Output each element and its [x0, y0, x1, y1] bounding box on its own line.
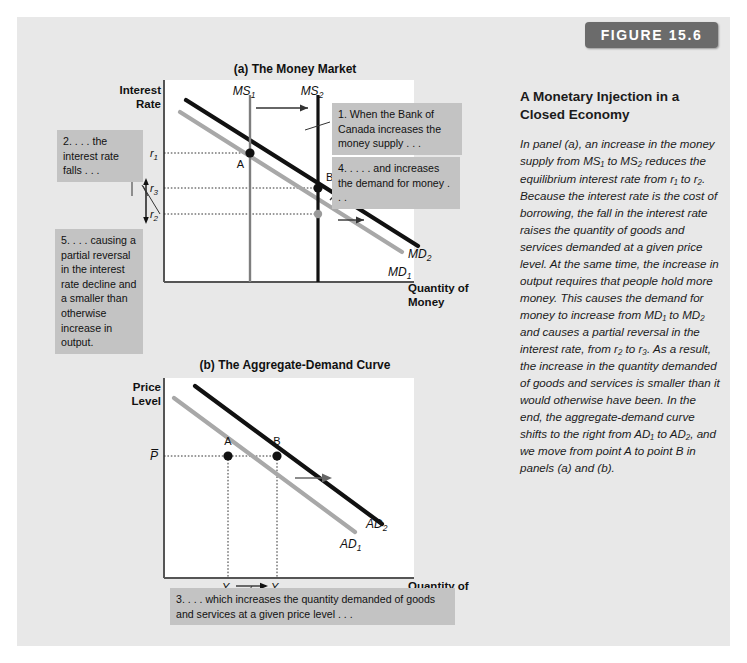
- panel-b-y-axis-label: Price Level: [117, 381, 161, 409]
- callout-step-2: 2. . . . the interest rate falls . . .: [57, 130, 143, 182]
- panel-a-label-point-a: A: [237, 158, 245, 170]
- panel-b-point-a-dot: [223, 451, 232, 460]
- callout-step-1: 1. When the Bank of Canada increases the…: [332, 103, 462, 155]
- panel-a-x-axis-label: Quantity of Money: [408, 282, 470, 310]
- callout-step-4: 4. . . . . and increases the demand for …: [332, 157, 460, 209]
- panel-a-point-b-dot: [313, 183, 322, 192]
- panel-b-point-b-dot: [272, 451, 281, 460]
- panel-a-arrow-rate-reversal-head-down: [143, 217, 149, 224]
- sidebar-body: In panel (a), an increase in the money s…: [520, 135, 720, 476]
- panel-a-point-intermediate-dot: [314, 210, 322, 218]
- panel-a-tick-r3: r3: [150, 182, 159, 197]
- panel-a-point-a-dot: [245, 148, 254, 157]
- panel-b-plot-background: [164, 378, 414, 578]
- callout-step-5: 5. . . . causing a partial reversal in t…: [55, 229, 143, 354]
- panel-b-title: (b) The Aggregate-Demand Curve: [150, 358, 440, 372]
- panel-a-tick-r1: r1: [150, 147, 158, 162]
- panel-b-label-point-b: B: [273, 435, 280, 447]
- figure-page: FIGURE 15.6: [0, 0, 747, 663]
- panel-b-chart: P̅ Y1 Y2 AD2 AD1 A B: [150, 378, 414, 596]
- panel-a-label-md2: MD2: [408, 247, 432, 263]
- panel-b-label-point-a: A: [224, 435, 232, 447]
- sidebar-text-column: A Monetary Injection in a Closed Economy…: [520, 88, 720, 476]
- panel-a-arrow-rate-reversal-head-up: [143, 178, 149, 185]
- panel-a-title: (a) The Money Market: [170, 62, 420, 76]
- sidebar-title: A Monetary Injection in a Closed Economy: [520, 88, 720, 124]
- panel-a-y-axis-label: Interest Rate: [109, 84, 161, 112]
- callout-step-3: 3. . . . which increases the quantity de…: [170, 588, 455, 625]
- panel-b-tick-pbar: P̅: [150, 449, 159, 463]
